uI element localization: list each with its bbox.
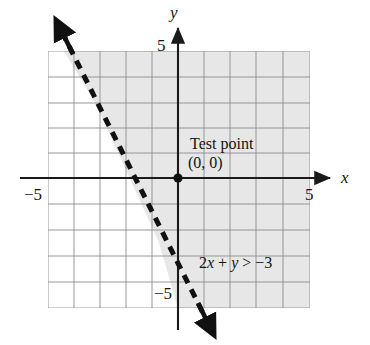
y-axis-label: y [170, 4, 178, 21]
x-axis-label: x [341, 169, 349, 186]
inequality-operator-plus: + [214, 254, 231, 271]
test-point-marker [173, 173, 182, 182]
inequality-relation: > [238, 254, 255, 271]
inequality-graph-figure: x y 5 −5 −5 5 Test point (0, 0) 2x + y >… [0, 0, 370, 345]
graph-canvas [0, 0, 370, 345]
boundary-arrow-up [58, 24, 72, 52]
test-point-label: Test point [190, 136, 253, 152]
y-tick-negative-5: −5 [154, 285, 172, 302]
y-tick-positive-5: 5 [157, 37, 166, 54]
shaded-region [62, 30, 310, 308]
test-point-coordinates: (0, 0) [188, 155, 223, 171]
inequality-right-side: −3 [255, 254, 272, 271]
inequality-label: 2x + y > −3 [199, 255, 272, 271]
x-tick-negative-5: −5 [24, 186, 42, 203]
x-tick-positive-5: 5 [305, 186, 314, 203]
inequality-coefficient: 2 [199, 254, 207, 271]
